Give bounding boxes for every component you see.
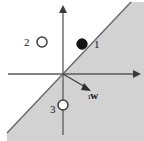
shaded-halfplane-region [7,2,144,141]
data-point-class3-marker [58,100,68,110]
figure-canvas [0,0,144,141]
weight-vector-symbol: w [90,89,98,101]
data-point-class1-label: 1 [94,39,100,50]
data-point-class1-marker [77,39,87,49]
data-point-class2-label: 2 [24,37,30,48]
data-point-class3-label: 3 [50,104,56,115]
data-point-class2-marker [37,37,47,47]
decision-boundary-figure: 1 2 3 ıw [0,0,144,141]
weight-vector-label: ıw [88,90,98,101]
y-axis-arrowhead-icon [59,5,67,13]
